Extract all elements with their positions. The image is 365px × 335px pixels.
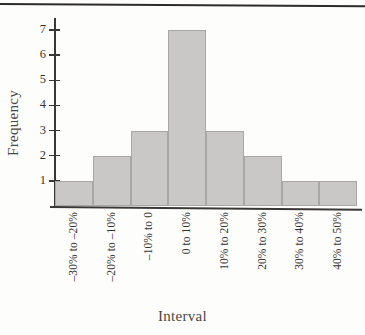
y-axis-tick-label-text: 5: [32, 73, 46, 85]
y-axis-tick-label: 2: [28, 149, 46, 161]
y-axis-title: Frequency: [2, 63, 24, 183]
histogram-bar: [55, 181, 93, 206]
histogram-bar: [131, 131, 169, 206]
y-axis-tick-label-text: 6: [32, 48, 46, 60]
y-axis-tick-label-text: 7: [32, 23, 46, 35]
x-axis-tick-label: –10% to 0: [131, 212, 169, 304]
x-axis-tick-label-text: –20% to –10%: [106, 212, 118, 282]
x-axis-line: [50, 206, 362, 210]
histogram-bar: [282, 181, 320, 206]
x-axis-tick-label-text: –10% to 0: [143, 212, 155, 260]
histogram-bar: [244, 156, 282, 206]
x-axis-tick-label-text: –30% to –20%: [68, 212, 80, 282]
y-axis-tick: [49, 130, 60, 132]
x-axis-tick-label: 20% to 30%: [244, 212, 282, 304]
y-axis-tick-label-text: 2: [32, 149, 46, 161]
x-axis-tick-label-text: 40% to 50%: [332, 212, 344, 270]
y-axis-tick-label: 7: [28, 23, 46, 35]
x-axis-tick-label: 10% to 20%: [206, 212, 244, 304]
x-axis-tick-label: 0 to 10%: [168, 212, 206, 304]
x-axis-tick-label-text: 0 to 10%: [181, 212, 193, 254]
y-axis-tick-label-text: 3: [32, 124, 46, 136]
y-axis-tick: [49, 105, 60, 107]
histogram-bar: [168, 30, 206, 206]
y-axis-tick-label: 4: [28, 98, 46, 110]
y-axis-tick-label: 3: [28, 124, 46, 136]
y-axis-tick-label: 1: [28, 174, 46, 186]
x-axis-tick-label-text: 30% to 40%: [294, 212, 306, 270]
y-axis-tick-label: 5: [28, 73, 46, 85]
header-rule: [0, 3, 365, 7]
histogram-bar: [319, 181, 357, 206]
x-axis-tick-label: –30% to –20%: [55, 212, 93, 304]
x-axis-title: Interval: [0, 308, 365, 325]
y-axis-tick: [49, 29, 60, 31]
y-axis-tick: [49, 54, 60, 56]
y-axis-tick: [49, 155, 60, 157]
x-axis-tick-label-text: 10% to 20%: [219, 212, 231, 270]
y-axis-tick-label-text: 1: [32, 174, 46, 186]
x-axis-tick-label-text: 20% to 30%: [257, 212, 269, 270]
histogram-bar: [93, 156, 131, 206]
x-axis-tick-label: 30% to 40%: [282, 212, 320, 304]
y-axis-title-text: Frequency: [5, 90, 22, 156]
histogram-figure: Frequency 1234567 –30% to –20%–20% to –1…: [0, 0, 365, 335]
x-axis-tick-label: –20% to –10%: [93, 212, 131, 304]
y-axis-tick-label-text: 4: [32, 98, 46, 110]
histogram-bar: [206, 131, 244, 206]
y-axis-tick: [49, 80, 60, 82]
x-axis-tick-label: 40% to 50%: [319, 212, 357, 304]
y-axis-tick-label: 6: [28, 48, 46, 60]
